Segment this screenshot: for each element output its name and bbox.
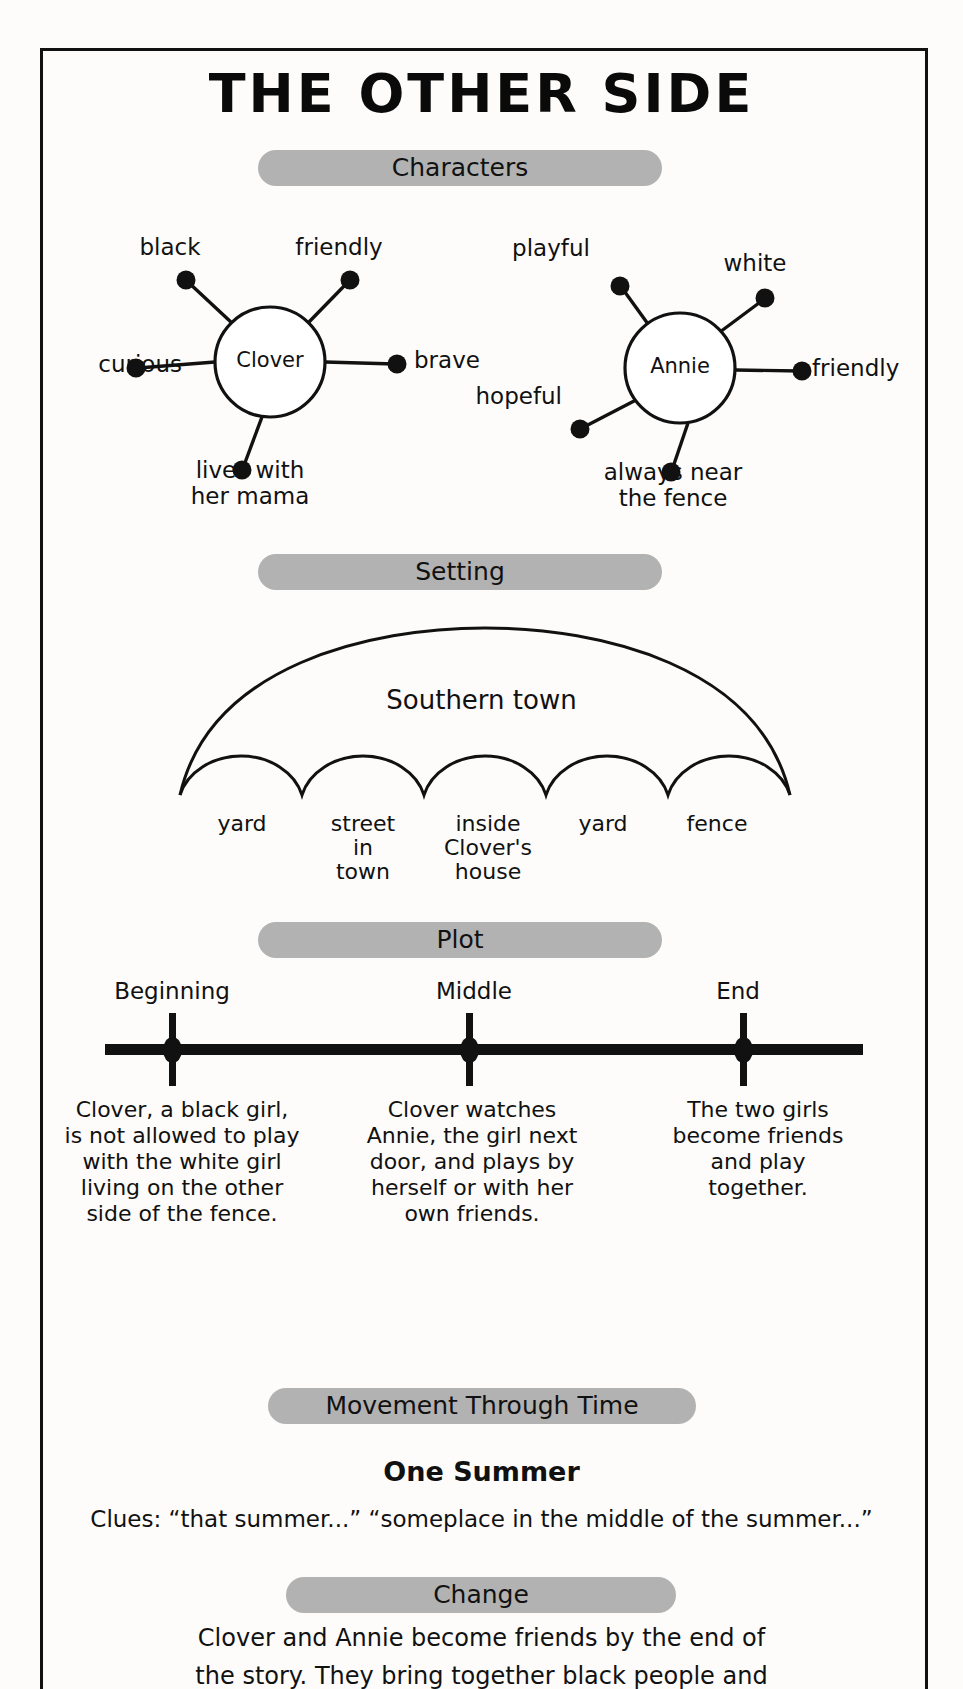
section-banner-change: Change xyxy=(286,1577,676,1613)
annie-trait-hopeful: hopeful xyxy=(442,383,562,409)
worksheet-page: THE OTHER SIDE Characters Clover black f… xyxy=(0,0,963,1689)
setting-place-fence: fence xyxy=(657,812,777,836)
page-title: THE OTHER SIDE xyxy=(0,62,963,125)
annie-trait-always-near-fence: always near the fence xyxy=(568,459,778,511)
plot-stage-label-middle: Middle xyxy=(394,978,554,1004)
worksheet-content: THE OTHER SIDE Characters Clover black f… xyxy=(0,0,963,1689)
plot-stage-label-beginning: Beginning xyxy=(92,978,252,1004)
setting-place-inside-clovers-house: inside Clover's house xyxy=(423,812,553,884)
clover-trait-curious: curious xyxy=(76,351,182,377)
plot-description-end: The two girls become friends and play to… xyxy=(643,1097,873,1201)
clover-trait-lives-with-mama: lives with her mama xyxy=(160,457,340,509)
plot-node-middle xyxy=(460,1037,479,1063)
section-banner-setting: Setting xyxy=(258,554,662,590)
setting-main-label: Southern town xyxy=(0,685,963,715)
plot-description-middle: Clover watches Annie, the girl next door… xyxy=(345,1097,599,1227)
plot-description-beginning: Clover, a black girl, is not allowed to … xyxy=(42,1097,322,1227)
plot-node-beginning xyxy=(163,1037,182,1063)
annie-trait-white: white xyxy=(700,250,810,276)
setting-place-yard-1: yard xyxy=(182,812,302,836)
setting-umbrella-diagram xyxy=(170,620,800,820)
clover-trait-friendly: friendly xyxy=(274,234,404,260)
plot-stage-label-end: End xyxy=(673,978,803,1004)
section-banner-plot: Plot xyxy=(258,922,662,958)
clover-center-label: Clover xyxy=(190,348,350,372)
section-banner-characters: Characters xyxy=(258,150,662,186)
setting-place-street-in-town: street in town xyxy=(303,812,423,884)
plot-node-end xyxy=(734,1037,753,1063)
setting-place-yard-2: yard xyxy=(548,812,658,836)
change-body-text: Clover and Annie become friends by the e… xyxy=(0,1619,963,1689)
annie-trait-playful: playful xyxy=(478,235,624,261)
section-banner-movement-through-time: Movement Through Time xyxy=(268,1388,696,1424)
annie-trait-friendly: friendly xyxy=(812,355,952,381)
clover-trait-black: black xyxy=(110,234,230,260)
movement-clues: Clues: “that summer...” “someplace in th… xyxy=(0,1506,963,1532)
movement-heading: One Summer xyxy=(0,1456,963,1487)
annie-center-label: Annie xyxy=(600,354,760,378)
